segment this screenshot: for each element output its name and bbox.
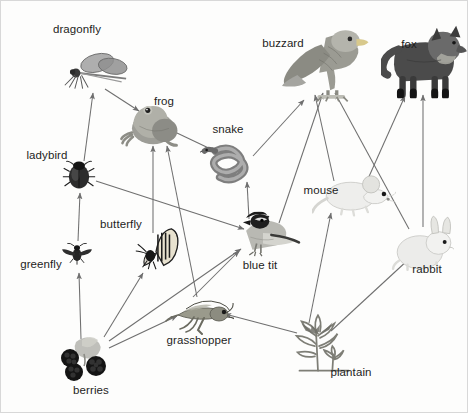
butterfly-label: butterfly — [100, 219, 142, 231]
rabbit-label: rabbit — [412, 264, 441, 276]
berries-label: berries — [73, 385, 109, 397]
buzzard-label: buzzard — [262, 38, 304, 50]
arrow-mouse-to-fox — [367, 96, 405, 181]
greenfly-label: greenfly — [20, 259, 62, 271]
buzzard-image — [282, 23, 374, 104]
grasshopper-label: grasshopper — [166, 335, 231, 347]
snake-image — [200, 138, 272, 188]
arrow-mouse-to-buzzard — [315, 95, 334, 181]
ladybird-label: ladybird — [26, 150, 67, 162]
mouse-label: mouse — [303, 185, 338, 197]
arrow-plantain-to-mouse — [309, 213, 331, 323]
arrow-grasshopper-to-frog — [167, 146, 197, 297]
fox-label: fox — [401, 39, 417, 51]
butterfly-image — [131, 227, 181, 272]
fox-image — [381, 24, 467, 99]
greenfly-image — [61, 243, 93, 266]
frog-label: frog — [154, 96, 174, 108]
arrow-ladybird-to-dragonfly — [84, 93, 93, 161]
dragonfly-image — [57, 51, 135, 96]
food-web-diagram: dragonflyfrogsnakebuzzardfoxmouserabbitl… — [0, 0, 468, 413]
arrow-berries-to-greenfly — [79, 273, 81, 339]
blue-tit-image — [225, 212, 301, 259]
grasshopper-image — [164, 293, 234, 335]
dragonfly-label: dragonfly — [53, 24, 101, 36]
snake-label: snake — [212, 124, 243, 136]
arrow-berries-to-butterfly — [104, 273, 143, 337]
arrow-greenfly-to-ladybird — [78, 193, 80, 241]
ladybird-image — [62, 158, 96, 192]
berries-image — [54, 334, 116, 382]
plantain-label: plantain — [330, 367, 371, 379]
blue-tit-label: blue tit — [243, 260, 278, 272]
